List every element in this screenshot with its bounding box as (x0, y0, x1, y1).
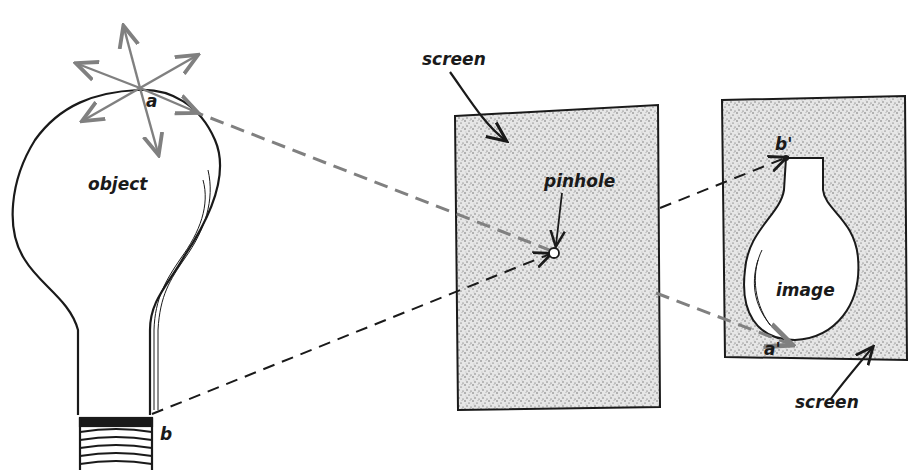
label-screen-bottom: screen (795, 392, 859, 412)
label-a: a (146, 91, 157, 111)
pinhole-camera-diagram: a object b screen pinhole b' image a' sc… (0, 0, 914, 470)
light-bulb-object (13, 90, 220, 470)
label-b: b (160, 424, 172, 444)
label-b-prime: b' (775, 134, 792, 154)
label-pinhole: pinhole (543, 171, 615, 191)
label-object: object (88, 174, 148, 194)
point-b-prime-dot (783, 155, 789, 161)
bulb-screw-base-icon (80, 418, 152, 470)
label-a-prime: a' (764, 339, 781, 359)
label-image: image (776, 280, 835, 300)
pinhole-icon (549, 248, 559, 258)
label-screen-top: screen (422, 49, 486, 69)
